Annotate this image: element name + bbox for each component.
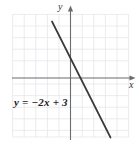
equation-label: y = −2x + 3 <box>14 96 68 108</box>
line-graph-y-equals-minus-2x-plus-3 <box>52 22 111 138</box>
coordinate-plane-svg <box>0 0 140 144</box>
y-axis-label: y <box>58 1 62 12</box>
x-axis-label: x <box>129 79 133 90</box>
graph-figure: y x y = −2x + 3 <box>0 0 140 144</box>
